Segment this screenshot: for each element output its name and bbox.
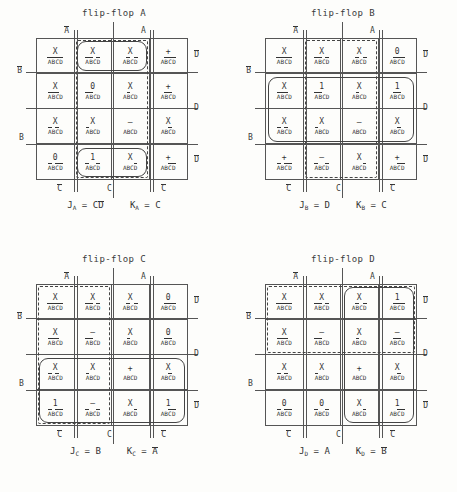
axis-label-d: D <box>194 103 199 112</box>
cell-minterm: ABCD <box>123 338 137 346</box>
kmap-cell[interactable]: XABCD <box>266 109 304 144</box>
kmap-cell[interactable]: XABCD <box>379 355 417 390</box>
kmap-cell[interactable]: XABCD <box>266 320 304 355</box>
kmap-cell[interactable]: XABCD <box>304 39 342 74</box>
kmap-cell[interactable]: –ABCD <box>75 390 113 425</box>
cell-minterm: ABCD <box>161 127 175 135</box>
axis-label-a-bar: A <box>64 26 69 35</box>
kmap-cell[interactable]: XABCD <box>150 355 188 390</box>
kmap-cell[interactable]: XABCD <box>112 144 150 179</box>
equation-k: KA = C <box>130 200 161 211</box>
equation-k: KD = B <box>356 446 387 457</box>
kmap-cell[interactable]: XABCD <box>37 355 75 390</box>
cell-minterm: ABCD <box>85 338 100 346</box>
kmap-cell[interactable]: –ABCD <box>304 320 342 355</box>
kmap-cell[interactable]: +ABCD <box>112 355 150 390</box>
kmap-cell[interactable]: XABCD <box>304 355 342 390</box>
kmap-cell[interactable]: 1ABCD <box>379 74 417 109</box>
kmap-cell[interactable]: XABCD <box>75 285 113 320</box>
kmap-cell[interactable]: XABCD <box>37 320 75 355</box>
cell-minterm: ABCD <box>352 338 366 346</box>
kmap-grid-wrap: XABCDXABCDXABCD+ABCDXABCD0ABCDXABCD+ABCD… <box>36 38 188 180</box>
kmap-cell[interactable]: XABCD <box>112 74 150 109</box>
kmap-cell[interactable]: –ABCD <box>304 144 342 179</box>
kmap-a: flip-flop AXABCDXABCDXABCD+ABCDXABCD0ABC… <box>0 0 228 246</box>
cell-value: + <box>282 153 287 163</box>
kmap-cell[interactable]: XABCD <box>341 74 379 109</box>
cell-minterm: ABCD <box>161 409 176 417</box>
cell-value: X <box>128 47 133 57</box>
cell-minterm: ABCD <box>123 92 137 100</box>
kmap-cell[interactable]: 0ABCD <box>150 320 188 355</box>
cell-value: X <box>282 328 287 338</box>
kmap-cell[interactable]: XABCD <box>37 74 75 109</box>
kmap-cell[interactable]: XABCD <box>266 285 304 320</box>
kmap-cell[interactable]: XABCD <box>37 109 75 144</box>
kmap-cell[interactable]: –ABCD <box>112 109 150 144</box>
cell-value: 1 <box>90 153 95 163</box>
kmap-cell[interactable]: +ABCD <box>150 144 188 179</box>
kmap-cell[interactable]: XABCD <box>304 285 342 320</box>
kmap-cell[interactable]: XABCD <box>341 390 379 425</box>
kmap-cell[interactable]: 1ABCD <box>37 390 75 425</box>
kmap-cell[interactable]: –ABCD <box>379 320 417 355</box>
kmap-cell[interactable]: 0ABCD <box>379 39 417 74</box>
kmap-cell[interactable]: XABCD <box>266 39 304 74</box>
kmap-cell[interactable]: 1ABCD <box>379 390 417 425</box>
kmap-cell[interactable]: 1ABCD <box>379 285 417 320</box>
kmap-cell[interactable]: XABCD <box>266 355 304 390</box>
kmap-cell[interactable]: –ABCD <box>75 320 113 355</box>
kmap-cell[interactable]: XABCD <box>37 39 75 74</box>
kmap-grid: XABCDXABCDXABCD+ABCDXABCD0ABCDXABCD+ABCD… <box>36 38 188 180</box>
axis-label-a: A <box>141 272 146 281</box>
kmap-cell[interactable]: XABCD <box>341 144 379 179</box>
kmap-cell[interactable]: XABCD <box>341 320 379 355</box>
kmap-cell[interactable]: 1ABCD <box>150 390 188 425</box>
kmap-cell[interactable]: +ABCD <box>379 144 417 179</box>
kmap-cell[interactable]: XABCD <box>112 390 150 425</box>
kmap-grid-wrap: XABCDXABCDXABCD0ABCDXABCD1ABCDXABCD1ABCD… <box>265 38 417 180</box>
cell-minterm: ABCD <box>390 409 405 417</box>
cell-minterm: ABCD <box>123 57 138 65</box>
cell-value: X <box>128 399 133 409</box>
kmap-cell[interactable]: XABCD <box>37 285 75 320</box>
kmap-cell[interactable]: 0ABCD <box>266 390 304 425</box>
cell-minterm: ABCD <box>352 163 366 171</box>
kmap-cell[interactable]: 0ABCD <box>150 285 188 320</box>
kmap-cell[interactable]: XABCD <box>112 285 150 320</box>
cell-minterm: ABCD <box>277 409 292 417</box>
cell-value: X <box>282 117 287 127</box>
kmap-cell[interactable]: XABCD <box>341 39 379 74</box>
cell-value: X <box>282 363 287 373</box>
kmap-cell[interactable]: XABCD <box>379 109 417 144</box>
kmap-cell[interactable]: +ABCD <box>266 144 304 179</box>
kmap-title: flip-flop A <box>0 8 228 18</box>
kmap-cell[interactable]: 1ABCD <box>75 144 113 179</box>
kmap-cell[interactable]: 1ABCD <box>304 74 342 109</box>
kmap-cell[interactable]: 0ABCD <box>37 144 75 179</box>
kmap-cell[interactable]: –ABCD <box>341 109 379 144</box>
cell-value: X <box>357 293 362 303</box>
kmap-grid: XABCDXABCDXABCD0ABCDXABCD1ABCDXABCD1ABCD… <box>265 38 417 180</box>
cell-value: – <box>128 118 133 128</box>
kmap-cell[interactable]: +ABCD <box>150 39 188 74</box>
cell-minterm: ABCD <box>352 128 366 135</box>
kmap-cell[interactable]: +ABCD <box>341 355 379 390</box>
cell-value: X <box>53 47 58 57</box>
kmap-cell[interactable]: XABCD <box>112 39 150 74</box>
kmap-cell[interactable]: XABCD <box>75 355 113 390</box>
kmap-cell[interactable]: XABCD <box>75 109 113 144</box>
kmap-cell[interactable]: 0ABCD <box>304 390 342 425</box>
kmap-cell[interactable]: XABCD <box>75 39 113 74</box>
kmap-cell[interactable]: XABCD <box>341 285 379 320</box>
kmap-cell[interactable]: XABCD <box>266 74 304 109</box>
kmap-cell[interactable]: XABCD <box>112 320 150 355</box>
kmap-cell[interactable]: +ABCD <box>150 74 188 109</box>
cell-minterm: ABCD <box>390 57 405 65</box>
kmap-cell[interactable]: XABCD <box>150 109 188 144</box>
cell-minterm: ABCD <box>47 303 63 311</box>
kmap-cell[interactable]: 0ABCD <box>75 74 113 109</box>
kmap-cell[interactable]: XABCD <box>304 109 342 144</box>
axis-label-c: C <box>107 184 112 193</box>
cell-value: X <box>282 82 287 92</box>
